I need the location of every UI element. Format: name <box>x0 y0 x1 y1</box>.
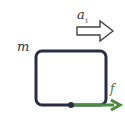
acceleration-symbol: a <box>77 7 85 22</box>
friction-label: f <box>110 83 114 95</box>
application-point <box>68 102 74 108</box>
diagram-canvas <box>0 0 125 116</box>
acceleration-label: a1 <box>77 8 89 24</box>
acceleration-subscript: 1 <box>85 17 89 24</box>
mass-label: m <box>17 40 29 53</box>
acceleration-arrow-icon <box>77 21 113 41</box>
mass-block <box>36 51 106 105</box>
